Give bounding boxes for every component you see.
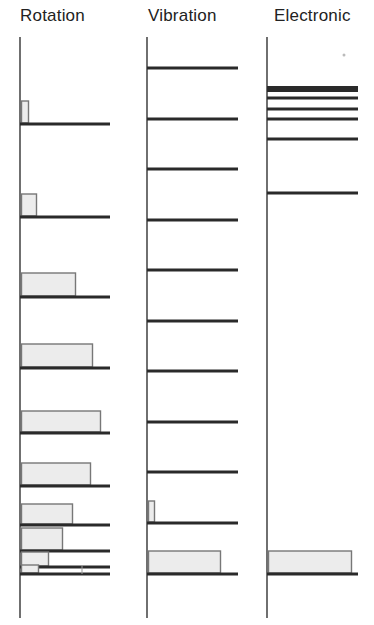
rotation-population-bar [22,411,101,432]
energy-level-diagram [0,0,374,625]
electronic-population-bar [269,551,352,573]
rotation-population-bar [22,194,37,216]
vibration-population-bar [149,551,221,573]
electronic-levels [267,37,358,618]
rotation-population-bar [22,565,39,573]
rotation-population-bar [22,344,93,367]
rotation-population-bar [22,463,91,485]
rotation-levels [20,37,110,618]
rotation-population-bar [22,552,49,566]
vibration-population-bar [149,501,155,522]
rotation-population-bar [22,528,63,550]
rotation-population-bar [22,273,76,296]
vibration-levels [147,37,238,618]
rotation-population-bar [22,504,73,524]
rotation-population-bar [22,101,29,123]
stray-dot [343,54,346,57]
